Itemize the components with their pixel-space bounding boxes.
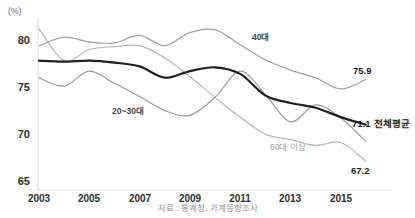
line-1-age-group <box>39 29 366 89</box>
end-value-40s: 75.9 <box>353 66 372 76</box>
series-label-60s-over: 60대 이상 <box>270 143 306 152</box>
average-value: 71.1 <box>352 118 371 129</box>
series-label-average: 전체평균 <box>374 118 410 129</box>
y-tick-75: 75 <box>0 82 30 93</box>
series-label-20-30s: 20~30대 <box>112 107 144 116</box>
x-tick-2015: 2015 <box>321 194 361 204</box>
chart-canvas <box>0 0 415 218</box>
y-axis-unit-label: (%) <box>8 7 21 16</box>
x-tick-2005: 2005 <box>69 194 109 204</box>
source-caption: 자료 : 통계청, 가계동향조사 <box>118 204 298 213</box>
x-tick-2013: 2013 <box>270 194 310 204</box>
chart-figure: (%) 80 75 70 65 2003 2005 2007 2009 2011… <box>0 0 415 218</box>
x-tick-2007: 2007 <box>120 194 160 204</box>
end-value-60s-over: 67.2 <box>351 166 370 176</box>
end-value-average: 71.1전체평균 <box>352 119 410 129</box>
line-0-age-group <box>39 29 366 162</box>
line-2-age-group <box>39 71 366 142</box>
y-tick-70: 70 <box>0 129 30 140</box>
line-3-average <box>39 61 366 125</box>
series-label-40s: 40대 <box>252 33 269 42</box>
y-tick-65: 65 <box>0 176 30 187</box>
y-tick-80: 80 <box>0 35 30 46</box>
x-tick-2003: 2003 <box>19 194 59 204</box>
series-lines <box>39 29 366 162</box>
